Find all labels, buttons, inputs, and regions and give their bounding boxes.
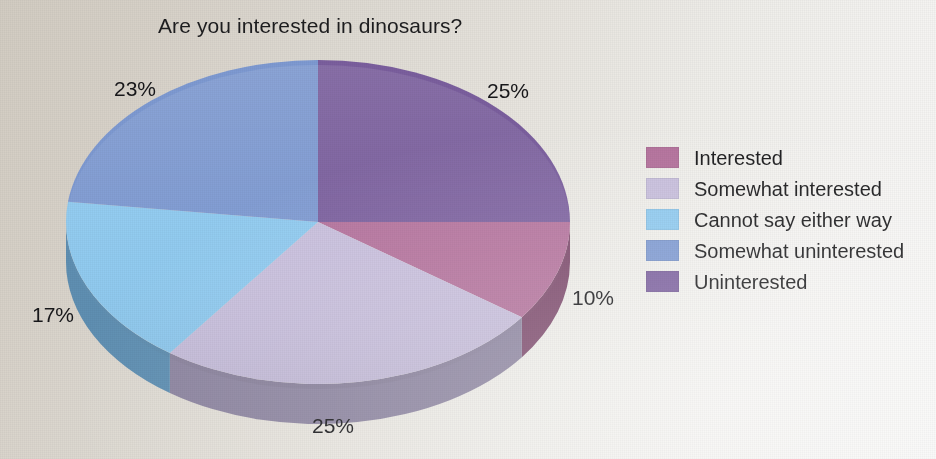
- legend-item[interactable]: Somewhat interested: [646, 177, 904, 200]
- legend-item-label: Somewhat uninterested: [694, 241, 904, 261]
- legend-item[interactable]: Interested: [646, 146, 904, 169]
- legend-color-swatch: [646, 271, 679, 292]
- chart-canvas: Are you interested in dinosaurs? 23% 25%…: [0, 0, 936, 459]
- pie-value-label-somewhat-interested: 25%: [312, 414, 354, 438]
- legend-item[interactable]: Cannot say either way: [646, 208, 904, 231]
- pie-chart: 23% 25% 10% 25% 17%: [0, 0, 640, 459]
- pie-value-label-somewhat-uninterested: 23%: [114, 77, 156, 101]
- legend-item-label: Somewhat interested: [694, 179, 882, 199]
- legend-color-swatch: [646, 209, 679, 230]
- pie-value-label-cannot-say-either-way: 17%: [32, 303, 74, 327]
- legend-item[interactable]: Uninterested: [646, 270, 904, 293]
- legend-color-swatch: [646, 240, 679, 261]
- legend-item-label: Interested: [694, 148, 783, 168]
- legend-color-swatch: [646, 178, 679, 199]
- pie-value-label-interested: 10%: [572, 286, 614, 310]
- legend-color-swatch: [646, 147, 679, 168]
- pie-sheen: [66, 65, 570, 389]
- chart-legend: InterestedSomewhat interestedCannot say …: [646, 146, 904, 293]
- legend-item-label: Uninterested: [694, 272, 807, 292]
- pie-chart-svg: [0, 0, 640, 459]
- pie-value-label-uninterested: 25%: [487, 79, 529, 103]
- legend-item[interactable]: Somewhat uninterested: [646, 239, 904, 262]
- legend-item-label: Cannot say either way: [694, 210, 892, 230]
